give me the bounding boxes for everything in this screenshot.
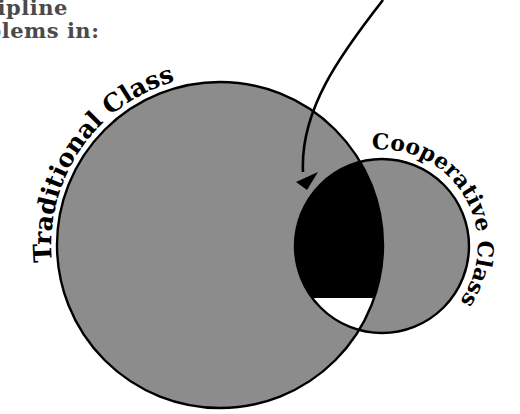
venn-diagram: Traditional Class Cooperative Class (0, 0, 520, 414)
